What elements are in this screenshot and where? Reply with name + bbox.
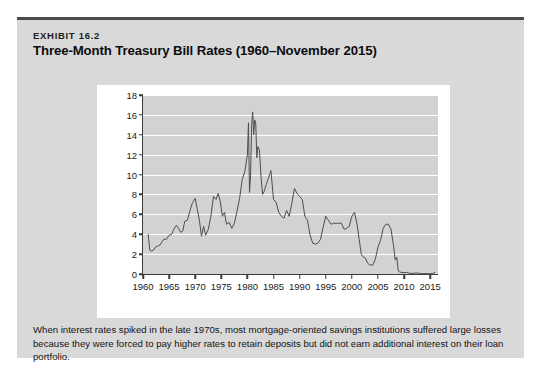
x-tick-mark <box>403 274 405 279</box>
x-tick-label: 1975 <box>211 281 232 292</box>
x-tick-mark <box>299 274 301 279</box>
x-tick-mark <box>377 274 379 279</box>
x-tick-label: 2010 <box>393 281 414 292</box>
x-tick-label: 1970 <box>185 281 206 292</box>
treasury-bill-rate-line <box>143 95 438 274</box>
y-tick-label: 0 <box>132 269 137 280</box>
exhibit-caption: When interest rates spiked in the late 1… <box>33 323 511 364</box>
x-tick-mark <box>168 274 170 279</box>
x-tick-label: 1980 <box>237 281 258 292</box>
y-tick-label: 16 <box>126 109 137 120</box>
y-tick-label: 4 <box>132 229 137 240</box>
x-tick-label: 1985 <box>263 281 284 292</box>
exhibit-number: EXHIBIT 16.2 <box>33 30 100 41</box>
x-tick-label: 1965 <box>159 281 180 292</box>
y-tick-label: 8 <box>132 189 137 200</box>
x-tick-mark <box>429 274 431 279</box>
y-tick-label: 14 <box>126 129 137 140</box>
exhibit-screenshot: EXHIBIT 16.2 Three-Month Treasury Bill R… <box>0 0 542 372</box>
y-tick-label: 18 <box>126 90 137 101</box>
exhibit-panel: EXHIBIT 16.2 Three-Month Treasury Bill R… <box>17 17 524 358</box>
x-tick-label: 1990 <box>289 281 310 292</box>
x-tick-mark <box>273 274 275 279</box>
x-tick-mark <box>247 274 249 279</box>
x-tick-label: 2000 <box>341 281 362 292</box>
y-tick-label: 6 <box>132 209 137 220</box>
x-tick-label: 2015 <box>420 281 441 292</box>
chart-plot-area: 024681012141618 196019651970197519801985… <box>142 95 438 275</box>
y-tick-label: 12 <box>126 149 137 160</box>
x-tick-mark <box>221 274 223 279</box>
chart-card: 024681012141618 196019651970197519801985… <box>97 85 450 318</box>
x-tick-mark <box>325 274 327 279</box>
x-tick-label: 2005 <box>367 281 388 292</box>
page-title: Three-Month Treasury Bill Rates (1960–No… <box>33 43 377 58</box>
y-tick-label: 10 <box>126 169 137 180</box>
x-tick-mark <box>142 274 144 279</box>
x-tick-mark <box>351 274 353 279</box>
x-tick-label: 1995 <box>315 281 336 292</box>
x-tick-mark <box>194 274 196 279</box>
y-tick-label: 2 <box>132 249 137 260</box>
x-tick-label: 1960 <box>132 281 153 292</box>
